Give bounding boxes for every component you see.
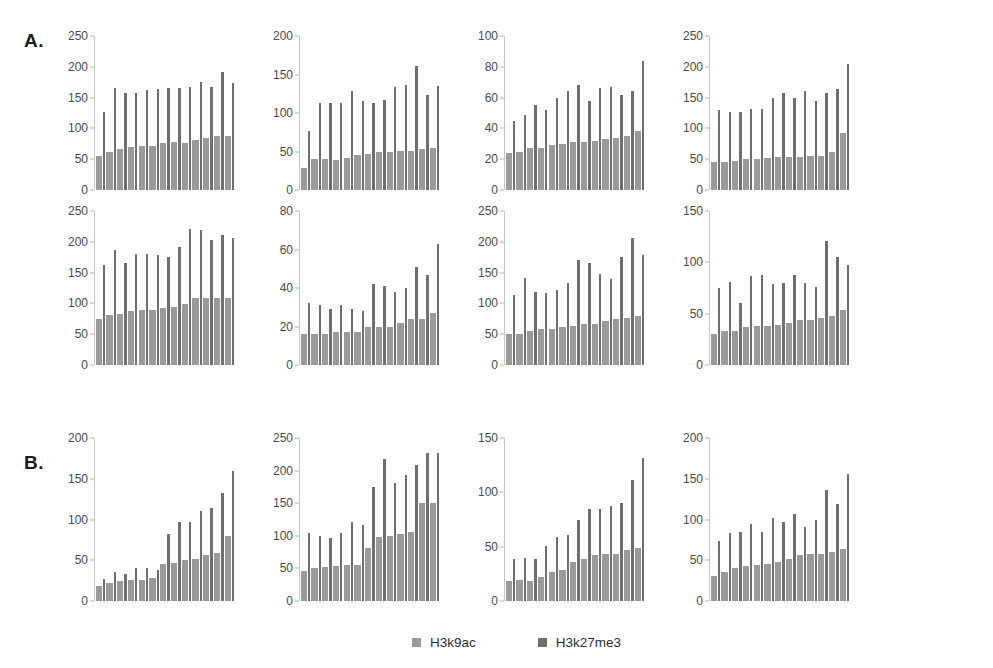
bar-group: [559, 211, 570, 365]
bars-container: [300, 211, 440, 365]
bar-group: [580, 36, 591, 190]
bar-group: [397, 438, 408, 601]
bar-group: [623, 36, 634, 190]
bar-group: [375, 438, 386, 601]
bar-h3k9ac: [754, 326, 760, 365]
y-axis-tick-label: 200: [68, 235, 88, 249]
bar-h3k9ac: [743, 327, 749, 365]
y-axis: 050100150200: [265, 36, 299, 190]
bar-group: [505, 438, 516, 601]
bar-h3k9ac: [344, 332, 350, 365]
bar-h3k9ac: [602, 554, 608, 601]
bar-h3k9ac: [333, 332, 339, 365]
y-axis-tick-label: 100: [478, 296, 498, 310]
y-axis: 020406080: [265, 211, 299, 365]
bar-group: [559, 36, 570, 190]
bar-h3k9ac: [807, 554, 813, 601]
y-axis-tick-label: 100: [478, 485, 498, 499]
figure-root: A. 050100150200250 050100150200 02040608…: [0, 0, 993, 668]
bar-group: [127, 36, 138, 190]
bar-h3k9ac: [311, 334, 317, 365]
y-axis-tick-label: 100: [478, 29, 498, 43]
bar-h3k9ac: [840, 549, 846, 601]
bar-group: [408, 438, 419, 601]
bar-h3k9ac: [354, 155, 360, 190]
y-axis: 050100150200250: [60, 36, 94, 190]
bar-h3k9ac: [711, 576, 717, 601]
bar-group: [764, 36, 775, 190]
bar-group: [117, 211, 128, 365]
bar-group: [818, 438, 829, 601]
bar-group: [818, 36, 829, 190]
bar-group: [181, 211, 192, 365]
bar-h3k9ac: [764, 158, 770, 190]
bars-container: [95, 211, 235, 365]
bar-h3k9ac: [214, 136, 220, 190]
bar-h3k9ac: [581, 142, 587, 190]
bar-h3k9ac: [139, 146, 145, 190]
bar-group: [429, 211, 440, 365]
bar-group: [106, 438, 117, 601]
bar-group: [192, 36, 203, 190]
y-axis-tick-label: 150: [273, 68, 293, 82]
bar-group: [807, 438, 818, 601]
bar-h3k9ac: [354, 332, 360, 365]
bar-h3k9ac: [225, 298, 231, 365]
legend-label-h3k27me3: H3k27me3: [556, 635, 621, 650]
bar-group: [527, 438, 538, 601]
bar-group: [160, 211, 171, 365]
bar-group: [95, 36, 106, 190]
bar-h3k9ac: [311, 159, 317, 190]
bar-h3k9ac: [192, 298, 198, 365]
bar-h3k9ac: [160, 308, 166, 365]
bar-group: [203, 211, 214, 365]
y-axis-tick-label: 200: [273, 464, 293, 478]
chart-a-row2-col2: 020406080: [265, 211, 440, 365]
y-axis-tick-label: 0: [81, 358, 88, 372]
bars-container: [710, 211, 850, 365]
y-axis-tick-label: 0: [696, 594, 703, 608]
bar-h3k9ac: [592, 141, 598, 190]
bar-group: [170, 211, 181, 365]
bar-h3k9ac: [786, 157, 792, 190]
bar-group: [775, 211, 786, 365]
bar-group: [537, 211, 548, 365]
bar-group: [343, 211, 354, 365]
bar-h3k9ac: [117, 314, 123, 365]
y-axis: 020406080100: [470, 36, 504, 190]
y-axis-tick-label: 50: [690, 152, 703, 166]
y-axis-tick-label: 100: [68, 296, 88, 310]
bar-h3k9ac: [430, 503, 436, 601]
bar-group: [742, 36, 753, 190]
bar-h3k9ac: [203, 555, 209, 601]
y-axis-tick-label: 250: [68, 29, 88, 43]
bar-group: [332, 211, 343, 365]
y-axis-tick-label: 0: [81, 183, 88, 197]
bar-h3k9ac: [301, 334, 307, 365]
y-axis-tick-label: 0: [286, 594, 293, 608]
bar-group: [559, 438, 570, 601]
bar-h3k27me3: [642, 255, 644, 365]
bar-h3k9ac: [387, 536, 393, 601]
bar-h3k9ac: [624, 136, 630, 190]
bar-group: [213, 211, 224, 365]
legend-swatch-icon-h3k27me3: [538, 638, 547, 647]
y-axis-tick-label: 150: [683, 472, 703, 486]
y-axis-tick-label: 150: [68, 472, 88, 486]
bar-group: [127, 438, 138, 601]
y-axis-tick-label: 150: [683, 91, 703, 105]
y-axis-tick-label: 100: [683, 255, 703, 269]
bar-h3k9ac: [516, 580, 522, 601]
bar-h3k9ac: [333, 160, 339, 190]
bar-group: [386, 211, 397, 365]
bar-group: [375, 211, 386, 365]
y-axis-tick-label: 200: [683, 60, 703, 74]
bar-group: [311, 438, 322, 601]
bar-h3k9ac: [527, 581, 533, 601]
bar-h3k9ac: [408, 532, 414, 601]
bars-container: [710, 36, 850, 190]
bar-group: [106, 36, 117, 190]
bar-h3k9ac: [117, 149, 123, 190]
bar-h3k9ac: [732, 568, 738, 601]
legend: H3k9ac H3k27me3: [412, 635, 621, 650]
